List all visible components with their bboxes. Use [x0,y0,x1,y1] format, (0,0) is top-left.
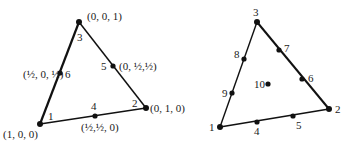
quadratic-triangle-element: 1 2 3 4 5 6 (1, 0, 0) (0, 1, 0) (0, 0, 1… [3,10,185,141]
cubic-triangle-element: 1 2 3 4 5 6 7 8 9 10 [209,6,341,137]
node-4 [254,119,259,124]
node-label-1: 1 [209,121,215,133]
node-label-3: 3 [253,6,259,18]
edge-1-3 [220,22,257,127]
edge-3-2 [257,22,329,109]
coord-label-node-5: (0, ½,½) [119,60,157,73]
node-label-8: 8 [234,48,240,60]
coord-label-node-3: (0, 0, 1) [87,10,122,23]
node-7 [276,47,281,52]
node-1 [37,121,43,127]
node-label-7: 7 [284,42,290,54]
coord-label-node-1: (1, 0, 0) [3,128,38,141]
node-3 [76,19,82,25]
node-5 [110,63,115,68]
node-label-3: 3 [77,31,83,43]
node-9 [229,90,234,95]
node-3 [254,19,260,25]
coord-label-node-2: (0, 1, 0) [150,102,185,115]
node-label-2: 2 [335,103,341,115]
node-5 [290,113,295,118]
node-2 [143,105,149,111]
finite-element-diagram: 1 2 3 4 5 6 (1, 0, 0) (0, 1, 0) (0, 0, 1… [0,0,353,149]
node-2 [326,106,332,112]
coord-label-node-4: (½,½, 0) [81,121,119,134]
node-label-4: 4 [254,125,260,137]
node-label-2: 2 [132,97,138,109]
node-label-5: 5 [296,119,302,131]
node-8 [241,56,246,61]
node-label-10: 10 [254,78,266,90]
node-label-9: 9 [222,87,228,99]
node-label-5: 5 [101,60,107,72]
node-label-1: 1 [48,110,54,122]
node-1 [217,124,223,130]
coord-label-node-6: (½, 0, ½) [23,68,64,81]
node-label-6: 6 [308,72,314,84]
node-6 [299,76,304,81]
node-4 [92,113,97,118]
node-10 [265,81,270,86]
node-label-4: 4 [91,100,97,112]
node-label-6: 6 [65,68,71,80]
edge-1-2 [220,109,329,127]
